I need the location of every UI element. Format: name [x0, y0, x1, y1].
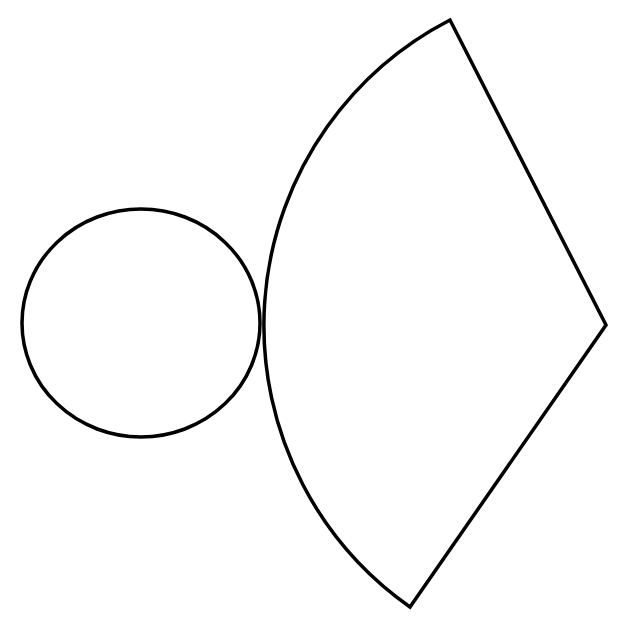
lateral-sector: [264, 20, 606, 607]
cone-net-diagram: [0, 0, 632, 635]
base-circle: [22, 209, 260, 437]
